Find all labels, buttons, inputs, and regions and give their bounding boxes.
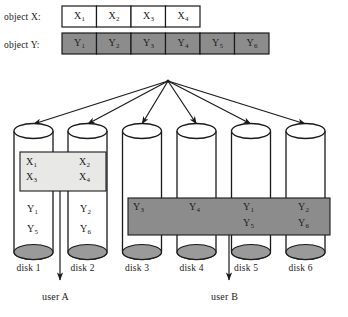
object-x-cell-label: X1 [74, 10, 85, 23]
object-y-cell-label: Y4 [178, 37, 189, 50]
object-y-box-label: Y3 [133, 201, 144, 214]
object-y-cells [62, 33, 269, 54]
fanout-arrow [168, 81, 197, 124]
object-y-box-label: Y5 [243, 217, 254, 230]
object-y-cell-label: Y6 [247, 37, 258, 50]
object-x-row-label: object X: [4, 12, 41, 22]
disk-cylinder-body [286, 131, 325, 259]
user-label: user B [211, 291, 238, 302]
disk-platter [177, 245, 216, 260]
disk-top [68, 124, 107, 139]
object-y-box-label: Y1 [243, 201, 254, 214]
disk-platter [68, 245, 107, 260]
disk-cylinder-body [232, 131, 271, 260]
disk-platter [286, 245, 325, 260]
disk-name-label: disk 2 [71, 263, 95, 273]
object-y-row-label: object Y: [4, 40, 40, 50]
disk-name-label: disk 4 [180, 263, 204, 273]
disk-loose-label: Y2 [80, 203, 91, 216]
disk-top [286, 124, 325, 139]
user-label: user A [42, 291, 69, 302]
disk-cylinder-body [123, 131, 162, 259]
fanout-arrow [168, 81, 306, 124]
object-x-box-label: X3 [26, 171, 37, 184]
object-x-cell-label: X2 [109, 10, 120, 23]
disk-loose-label: Y6 [80, 223, 91, 236]
disk-platter [232, 245, 271, 260]
disk-loose-label: Y1 [27, 203, 38, 216]
object-x-box-label: X4 [79, 171, 90, 184]
object-x-box-label: X1 [26, 156, 37, 169]
disk-platter [123, 245, 162, 260]
object-x-cell-label: X3 [143, 10, 154, 23]
object-y-cell-label: Y3 [143, 37, 154, 50]
diagram-canvas: object X: object Y: X1X2X3X4 Y1Y2Y3Y4Y5Y… [0, 0, 348, 317]
object-y-cell-label: Y5 [212, 37, 223, 50]
object-y-box-label: Y6 [298, 217, 309, 230]
object-y-box-label: Y4 [189, 201, 200, 214]
disk-cylinder-body [68, 131, 107, 260]
disk-loose-label: Y5 [27, 223, 38, 236]
disk-name-label: disk 3 [125, 263, 149, 273]
object-x-cell-label: X4 [178, 10, 189, 23]
object-x-box-label: X2 [79, 156, 90, 169]
disk-platter [14, 245, 53, 260]
disk-name-label: disk 5 [234, 263, 258, 273]
disk-name-label: disk 1 [17, 263, 41, 273]
disk-top [177, 124, 216, 139]
disk-top [14, 124, 53, 139]
object-y-cell-label: Y1 [74, 37, 85, 50]
disk-cylinder-body [14, 131, 53, 260]
object-y-cell-label: Y2 [109, 37, 120, 50]
disk-top [123, 124, 162, 139]
distribution-arrows [34, 79, 306, 124]
disk-cylinder-body [177, 131, 216, 260]
disk-name-label: disk 6 [289, 263, 313, 273]
object-y-box-label: Y2 [298, 201, 309, 214]
disk-top [232, 124, 271, 139]
